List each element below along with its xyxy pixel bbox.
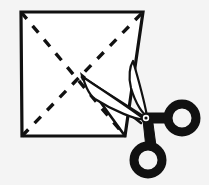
illustration-canvas	[0, 0, 209, 185]
paper-cutting-illustration	[0, 0, 209, 185]
scissors-pivot-center	[144, 116, 147, 119]
